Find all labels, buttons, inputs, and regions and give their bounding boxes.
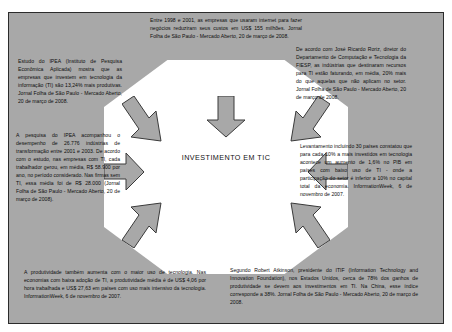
arrow-lower-right-icon	[274, 196, 330, 248]
note-middle-right: Levantamento incluindo 30 países constat…	[300, 142, 412, 198]
note-top: Entre 1998 e 2001, as empresas que usara…	[150, 16, 302, 40]
note-upper-left: Estudo do IPEA (Instituto de Pesquisa Ec…	[18, 57, 122, 105]
arrow-upper-right-icon	[274, 96, 330, 148]
arrow-upper-left-icon	[122, 96, 178, 148]
note-upper-right: De acordo com José Ricardo Roriz, direto…	[296, 45, 406, 101]
diagram-canvas: INVESTIMENTO EM TIC Entre 1998 e 2001, a…	[0, 0, 452, 332]
arrow-lower-left-icon	[122, 196, 178, 248]
arrow-top-icon	[206, 96, 246, 138]
note-bottom-left: A produtividade também aumenta com o mai…	[24, 268, 206, 300]
note-middle-left: A pesquisa do IPEA acompanhou o desempen…	[16, 131, 120, 203]
note-bottom-right: Segundo Robert Atkinson, presidente do I…	[230, 266, 418, 306]
